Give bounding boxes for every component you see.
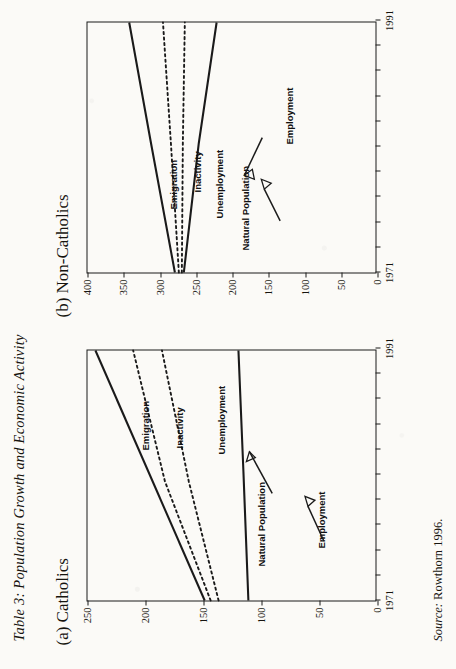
ytick-mark <box>87 272 88 277</box>
xtick-mark <box>375 397 380 398</box>
source-text: Rowthorn 1996. <box>430 518 444 599</box>
xtick-mark <box>375 246 380 247</box>
panel-b-title: (b) Non-Catholics <box>52 194 72 317</box>
ytick-label: 400 <box>82 279 93 295</box>
xtick-mark <box>375 347 380 348</box>
ytick-mark <box>145 600 146 605</box>
xtick-mark <box>375 498 380 499</box>
ytick-label: 300 <box>154 279 165 295</box>
ytick-label: 200 <box>140 607 151 623</box>
xtick-mark <box>375 549 380 550</box>
xtick-mark <box>375 44 380 45</box>
figure-title: Table 3: Population Growth and Economic … <box>10 334 27 641</box>
ytick-mark <box>232 272 233 277</box>
xtick-mark <box>375 170 380 171</box>
ytick-mark <box>123 272 124 277</box>
xtick-mark <box>375 271 380 272</box>
xtick-label-end: 1991 <box>383 338 394 359</box>
ytick-label: 250 <box>190 279 201 295</box>
xtick-mark <box>375 574 380 575</box>
ytick-label: 50 <box>335 279 346 290</box>
source-prefix: Source: <box>430 603 444 641</box>
ytick-label: 150 <box>198 607 209 623</box>
figure-source: Source: Rowthorn 1996. <box>430 518 445 641</box>
xtick-mark <box>375 473 380 474</box>
ytick-mark <box>305 272 306 277</box>
figure-page: Table 3: Population Growth and Economic … <box>0 0 456 669</box>
xtick-label-start: 1971 <box>383 262 394 283</box>
scanned-page-rotation-wrapper: Table 3: Population Growth and Economic … <box>0 0 456 669</box>
ytick-mark <box>196 272 197 277</box>
ytick-label: 250 <box>82 607 93 623</box>
xtick-mark <box>375 221 380 222</box>
ytick-label: 200 <box>227 279 238 295</box>
ytick-label: 150 <box>263 279 274 295</box>
xtick-mark <box>375 120 380 121</box>
panel-a-title: (a) Catholics <box>52 558 72 645</box>
plot-area-catholics: 250 200 150 100 50 0 1971 1991 Natural P… <box>86 349 376 601</box>
xtick-label-end: 1991 <box>383 10 394 31</box>
ytick-mark <box>341 272 342 277</box>
xtick-mark <box>375 599 380 600</box>
panel-catholics: (a) Catholics 250 200 150 <box>52 345 414 645</box>
annotation-arrows-non-catholics <box>87 22 375 272</box>
xtick-mark <box>375 372 380 373</box>
panel-non-catholics: (b) Non-Catholics 400 350 <box>52 17 414 317</box>
annotation-arrows-catholics <box>87 350 375 600</box>
ytick-mark <box>160 272 161 277</box>
ytick-label: 0 <box>372 279 383 284</box>
xtick-mark <box>375 19 380 20</box>
ytick-label: 50 <box>314 607 325 618</box>
xtick-mark <box>375 448 380 449</box>
xtick-mark <box>375 145 380 146</box>
ytick-label: 100 <box>299 279 310 295</box>
xtick-mark <box>375 423 380 424</box>
ytick-label: 0 <box>372 607 383 612</box>
ytick-label: 100 <box>256 607 267 623</box>
ytick-mark <box>319 600 320 605</box>
xtick-mark <box>375 195 380 196</box>
ytick-mark <box>87 600 88 605</box>
xtick-label-start: 1971 <box>383 590 394 611</box>
xtick-mark <box>375 523 380 524</box>
ytick-mark <box>268 272 269 277</box>
ytick-mark <box>261 600 262 605</box>
ytick-mark <box>377 272 378 277</box>
ytick-label: 350 <box>118 279 129 295</box>
plot-area-non-catholics: 400 350 300 250 200 150 100 50 0 1971 19… <box>86 21 376 273</box>
ytick-mark <box>203 600 204 605</box>
ytick-mark <box>377 600 378 605</box>
xtick-mark <box>375 69 380 70</box>
xtick-mark <box>375 95 380 96</box>
